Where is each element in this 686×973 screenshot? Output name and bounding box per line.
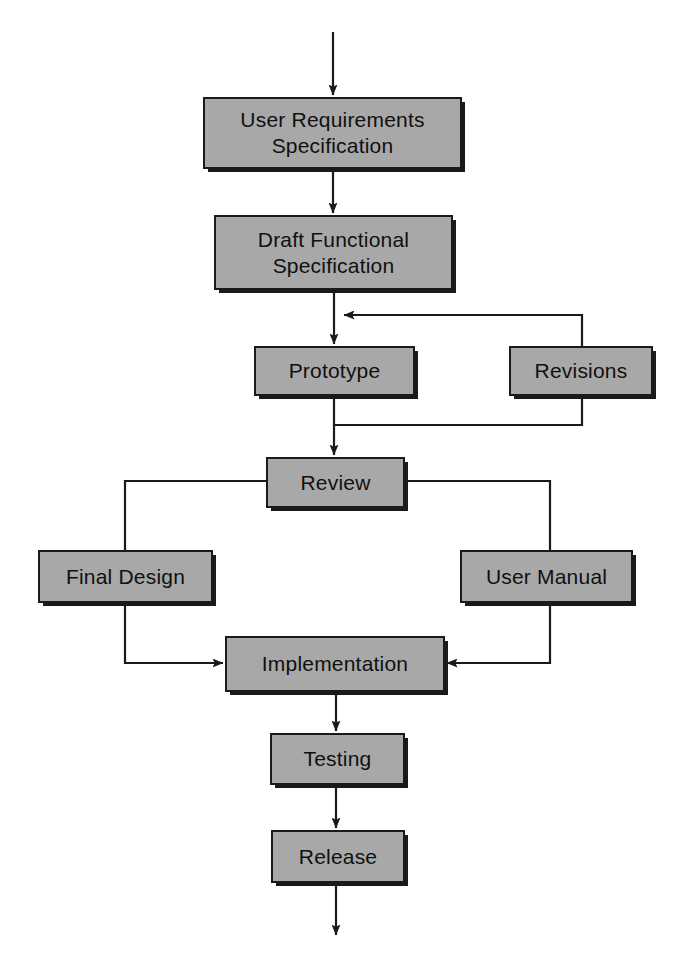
node-revisions[interactable]: Revisions [509,346,653,396]
node-label: Implementation [256,651,414,677]
node-label: Review [294,470,376,496]
flowchart-canvas: User Requirements Specification Draft Fu… [0,0,686,973]
node-label: Prototype [283,358,387,384]
node-final-design[interactable]: Final Design [38,550,213,603]
edge-revisions-feedback-to-main-path [344,315,582,346]
node-testing[interactable]: Testing [270,733,405,785]
node-label: User Requirements Specification [234,107,430,158]
node-label: Final Design [60,564,191,590]
node-label: Release [293,844,383,870]
edge-prototype-branch-to-revisions [334,396,582,425]
node-release[interactable]: Release [271,830,405,883]
node-label: Testing [298,746,378,772]
node-implementation[interactable]: Implementation [225,636,445,692]
node-label: Revisions [529,358,634,384]
node-prototype[interactable]: Prototype [254,346,415,396]
node-user-requirements-specification[interactable]: User Requirements Specification [203,97,462,169]
node-draft-functional-specification[interactable]: Draft Functional Specification [214,215,453,290]
node-label: Draft Functional Specification [252,227,415,278]
node-label: User Manual [480,564,613,590]
node-user-manual[interactable]: User Manual [460,550,633,603]
node-review[interactable]: Review [266,457,405,508]
